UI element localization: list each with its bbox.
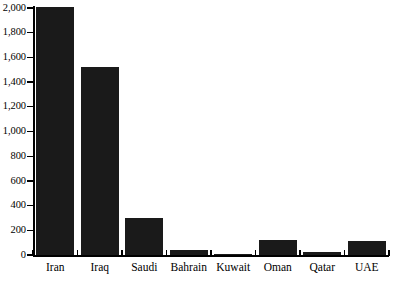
y-axis-tick-label: 2,000 [0,3,26,14]
y-axis-tick-label: 1,000 [0,126,26,137]
bar [125,218,163,255]
y-axis-tick-labels: 02004006008001,0001,2001,4001,6001,8002,… [0,0,26,285]
x-axis-category-labels: IranIraqSaudiBahrainKuwaitOmanQatarUAE [33,260,389,282]
y-axis-tick-label: 400 [0,200,26,211]
y-axis-tick-label: 1,600 [0,52,26,63]
x-axis-line [33,255,389,257]
y-axis-tick-label: 600 [0,176,26,187]
bar [348,241,386,255]
bar [81,67,119,255]
y-axis-tick-label: 0 [0,250,26,261]
bars-layer [33,0,389,255]
x-axis-category-label: UAE [337,260,394,274]
y-axis-tick-label: 1,800 [0,27,26,38]
bar [36,7,74,255]
y-axis-tick-label: 1,200 [0,101,26,112]
y-axis-tick-label: 800 [0,151,26,162]
y-axis-tick-label: 200 [0,225,26,236]
y-axis-tick-label: 1,400 [0,77,26,88]
bar [259,240,297,255]
